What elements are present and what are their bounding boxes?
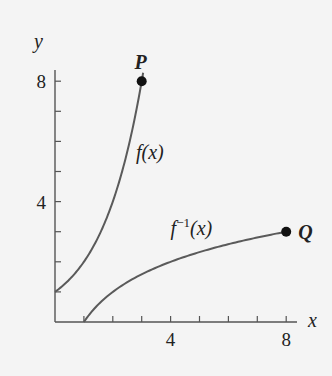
series-labels: f(x)f−1(x) — [136, 141, 213, 239]
curves — [55, 73, 286, 322]
label-f-inverse: f−1(x) — [171, 215, 213, 240]
label-f: f(x) — [136, 141, 164, 164]
x-axis-label: x — [307, 309, 317, 331]
point-p — [137, 76, 147, 86]
point-label-q: Q — [298, 221, 312, 243]
y-axis-label: y — [32, 30, 43, 53]
chart: y x 4848 f(x)f−1(x) PQ — [0, 0, 332, 376]
ticks — [55, 81, 286, 322]
curve-f — [55, 73, 143, 292]
tick-labels: 4848 — [37, 71, 291, 350]
axes: y x — [32, 30, 317, 331]
y-tick-label: 8 — [37, 71, 47, 92]
x-tick-label: 8 — [281, 329, 291, 350]
curve-f-inverse — [84, 232, 286, 322]
x-tick-label: 4 — [166, 329, 176, 350]
point-label-p: P — [134, 51, 148, 73]
point-q — [281, 227, 291, 237]
y-tick-label: 4 — [37, 192, 47, 213]
